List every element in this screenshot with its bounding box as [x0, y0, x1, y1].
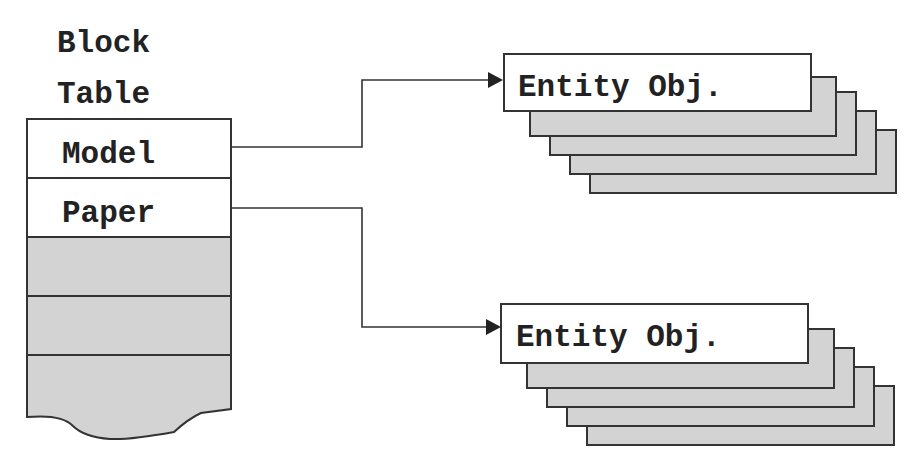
- connector-paper-to-entity: [231, 208, 501, 335]
- connector-model-to-entity: [231, 72, 503, 147]
- entity-stack-top: Entity Obj.: [504, 54, 896, 193]
- block-table: Model Paper: [27, 119, 231, 439]
- block-table-gray-body: [27, 237, 231, 439]
- entity-label-bottom: Entity Obj.: [516, 320, 721, 355]
- title-line-1: Block: [57, 26, 150, 61]
- entity-label-top: Entity Obj.: [518, 70, 723, 105]
- row-label-paper: Paper: [62, 196, 155, 231]
- row-label-model: Model: [62, 137, 155, 172]
- arrowhead-icon: [486, 319, 501, 335]
- block-table-diagram: Block Table Model Paper Entity Obj.: [0, 0, 917, 467]
- entity-stack-bottom: Entity Obj.: [501, 304, 894, 445]
- title-line-2: Table: [57, 77, 150, 112]
- arrowhead-icon: [488, 72, 503, 88]
